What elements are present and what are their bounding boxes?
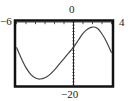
function-curve [17,27,112,79]
x-axis [17,22,112,24]
graph-plot [0,0,128,101]
plot-frame [15,21,113,87]
y-axis [72,22,74,85]
